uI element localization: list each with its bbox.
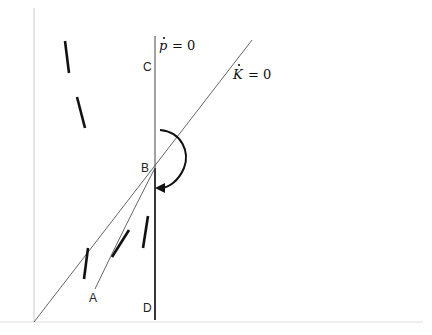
trajectory-segment [112, 230, 129, 257]
p-dot-equals-zero: = 0 [172, 38, 195, 53]
point-label-a: A [89, 291, 97, 305]
rotation-arrow [160, 130, 186, 188]
point-label-c: C [143, 60, 152, 74]
phase-diagram: p = 0 K = 0 A B C D [0, 0, 432, 335]
point-label-d: D [143, 301, 152, 315]
trajectory-segment [65, 41, 69, 73]
k-dot-equals-zero: = 0 [248, 67, 271, 82]
p-dot-variable: p [159, 38, 168, 53]
trajectory-segment [143, 216, 148, 248]
k-dot-zero-label: K = 0 [232, 64, 271, 82]
trajectory-segment [77, 97, 85, 128]
p-dot-overdot [163, 37, 165, 39]
k-dot-variable: K [232, 67, 244, 82]
k-dot-zero-locus [34, 40, 252, 322]
point-label-b: B [141, 161, 149, 175]
trajectory-segment [84, 248, 88, 279]
p-dot-zero-label: p = 0 [159, 37, 195, 53]
k-dot-overdot [238, 64, 240, 66]
